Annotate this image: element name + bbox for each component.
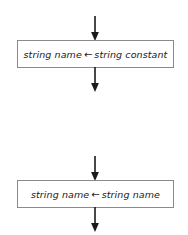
process-box-label: string name←string name <box>31 189 160 200</box>
flow-section-assignment-variable: string name←string name <box>0 140 188 235</box>
arrow-down-icon <box>88 207 102 232</box>
assignment-target: string name <box>24 49 82 60</box>
flowchart-diagram: string name←string constant string name←… <box>0 0 188 235</box>
left-arrow-operator-icon: ← <box>89 189 101 200</box>
arrow-down-icon <box>88 16 102 41</box>
left-arrow-operator-icon: ← <box>82 49 94 60</box>
process-box[interactable]: string name←string name <box>17 180 174 208</box>
assignment-source: string name <box>102 189 160 200</box>
process-box[interactable]: string name←string constant <box>17 40 174 68</box>
assignment-target: string name <box>31 189 89 200</box>
arrow-down-icon <box>88 67 102 92</box>
arrow-down-icon <box>88 156 102 181</box>
flow-section-assignment-constant: string name←string constant <box>0 0 188 95</box>
process-box-label: string name←string constant <box>24 49 168 60</box>
assignment-source: string constant <box>94 49 167 60</box>
